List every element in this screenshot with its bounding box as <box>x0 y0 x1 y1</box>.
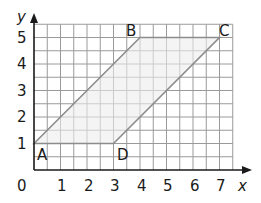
x-tick-4: 4 <box>137 177 147 195</box>
coordinate-grid-diagram: 0 1 2 3 4 5 6 7 x 1 2 3 4 5 y A B C D <box>0 0 261 203</box>
y-tick-5: 5 <box>17 29 27 47</box>
x-tick-1: 1 <box>57 177 67 195</box>
x-tick-3: 3 <box>110 177 120 195</box>
y-tick-3: 3 <box>17 82 27 100</box>
y-tick-2: 2 <box>17 108 27 126</box>
x-axis-label: x <box>237 177 247 195</box>
y-axis-arrow-icon <box>30 13 38 23</box>
x-tick-6: 6 <box>190 177 200 195</box>
y-tick-4: 4 <box>17 55 27 73</box>
vertex-label-a: A <box>37 146 48 164</box>
y-tick-1: 1 <box>17 135 27 153</box>
x-tick-5: 5 <box>163 177 173 195</box>
x-axis-arrow-icon <box>242 166 252 174</box>
x-tick-2: 2 <box>84 177 94 195</box>
vertex-label-c: C <box>219 22 229 40</box>
vertex-label-d: D <box>117 146 129 164</box>
x-tick-7: 7 <box>216 177 226 195</box>
vertex-label-b: B <box>126 22 136 40</box>
origin-label: 0 <box>17 177 27 195</box>
y-axis-label: y <box>16 8 27 26</box>
